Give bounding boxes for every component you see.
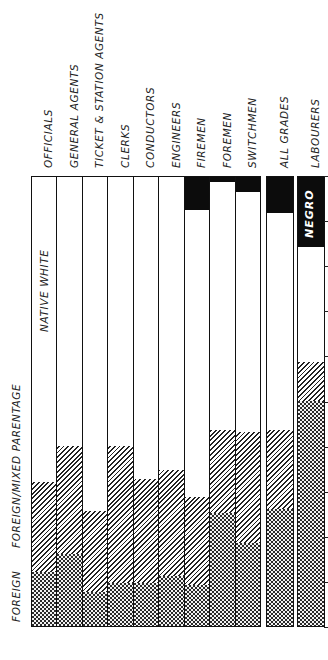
bar-labourers xyxy=(297,176,325,627)
axis-ticks xyxy=(324,176,328,627)
category-label: LABOURERS xyxy=(301,0,321,168)
segment-native xyxy=(134,176,158,479)
bar-foremen xyxy=(209,176,236,627)
category-label: FOREMEN xyxy=(213,0,233,168)
segment-foreign xyxy=(108,582,133,626)
tick-mark xyxy=(324,266,328,267)
tick-mark xyxy=(324,627,328,628)
segment-mixed xyxy=(267,429,293,509)
segment-foreign xyxy=(57,553,82,626)
series-label-negro: NEGRO xyxy=(303,189,316,238)
category-label: GENERAL AGENTS xyxy=(60,0,80,168)
category-label: CONDUCTORS xyxy=(136,0,156,168)
series-label-native: NATIVE WHITE xyxy=(38,249,50,332)
category-label: ENGINEERS xyxy=(162,0,182,168)
segment-mixed xyxy=(159,469,184,576)
segment-foreign xyxy=(236,542,260,626)
segment-mixed xyxy=(210,429,235,513)
category-label-text: ENGINEERS xyxy=(170,102,182,168)
segment-mixed xyxy=(57,445,82,554)
tick-mark xyxy=(324,492,328,493)
category-label: OFFICIALS xyxy=(34,0,54,168)
segment-foreign xyxy=(267,508,293,626)
bar-engineers xyxy=(158,176,185,627)
series-label-mixed: FOREIGN/MIXED PARENTAGE xyxy=(10,384,22,548)
category-label: FIREMEN xyxy=(187,0,207,168)
category-label-text: FOREMEN xyxy=(221,112,233,168)
tick-mark xyxy=(324,221,328,222)
segment-foreign xyxy=(298,400,324,627)
segment-native xyxy=(185,208,209,498)
segment-foreign xyxy=(32,571,56,626)
segment-mixed xyxy=(185,496,209,585)
segment-foreign xyxy=(185,584,209,626)
segment-foreign xyxy=(159,575,184,626)
segment-mixed xyxy=(134,478,158,583)
segment-mixed xyxy=(108,445,133,584)
bar-officials xyxy=(31,176,57,627)
segment-negro xyxy=(267,177,293,213)
category-label: SWITCHMEN xyxy=(238,0,258,168)
segment-mixed xyxy=(32,481,56,572)
series-label-foreign: FOREIGN xyxy=(10,570,22,622)
bar-firemen xyxy=(184,176,210,627)
segment-negro xyxy=(210,177,235,182)
tick-mark xyxy=(324,402,328,403)
bar-general-agents xyxy=(56,176,83,627)
segment-native xyxy=(210,180,235,430)
segment-native xyxy=(298,245,324,362)
segment-negro xyxy=(236,177,260,192)
segment-foreign xyxy=(83,591,107,626)
tick-mark xyxy=(324,447,328,448)
bar-conductors xyxy=(133,176,159,627)
bar-ticket-station-agents xyxy=(82,176,108,627)
category-label: TICKET & STATION AGENTS xyxy=(85,0,105,168)
segment-foreign xyxy=(134,582,158,626)
category-label: CLERKS xyxy=(111,0,131,168)
category-label-text: CONDUCTORS xyxy=(144,87,156,168)
segment-foreign xyxy=(210,512,235,626)
segment-native xyxy=(83,176,107,511)
tick-mark xyxy=(324,537,328,538)
category-label: ALL GRADES xyxy=(270,0,290,168)
segment-native xyxy=(108,176,133,446)
bar-switchmen xyxy=(235,176,261,627)
tick-mark xyxy=(324,311,328,312)
category-label-text: SWITCHMEN xyxy=(246,97,258,168)
category-label-text: LABOURERS xyxy=(309,99,321,168)
tick-mark xyxy=(324,356,328,357)
tick-mark xyxy=(324,582,328,583)
segment-native xyxy=(159,176,184,470)
segment-native xyxy=(267,211,293,430)
tick-mark xyxy=(324,176,328,177)
category-label-text: CLERKS xyxy=(119,124,131,168)
segment-mixed xyxy=(83,510,107,592)
segment-native xyxy=(236,190,260,432)
segment-mixed xyxy=(298,361,324,400)
bar-clerks xyxy=(107,176,134,627)
category-label-text: TICKET & STATION AGENTS xyxy=(93,12,105,168)
category-label-text: GENERAL AGENTS xyxy=(68,64,80,168)
segment-mixed xyxy=(236,431,260,542)
category-label-text: FIREMEN xyxy=(195,117,207,168)
bar-all-grades xyxy=(266,176,294,627)
category-label-text: OFFICIALS xyxy=(42,109,54,168)
category-label-text: ALL GRADES xyxy=(278,96,290,168)
segment-native xyxy=(57,176,82,446)
segment-negro xyxy=(185,177,209,210)
